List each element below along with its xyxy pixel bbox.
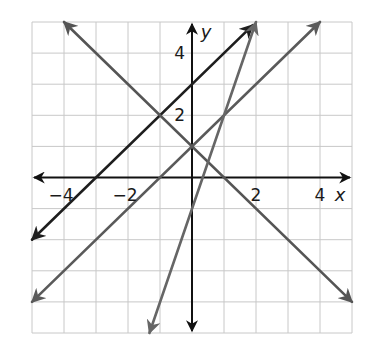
x-tick-label: −2 bbox=[112, 185, 137, 205]
y-tick-label: 4 bbox=[174, 43, 185, 63]
axes bbox=[34, 24, 350, 331]
x-tick-label: 4 bbox=[315, 185, 326, 205]
line-series-3 bbox=[32, 22, 320, 302]
y-tick-label: 2 bbox=[174, 105, 185, 125]
line-series-1 bbox=[32, 25, 253, 240]
x-axis-label: x bbox=[334, 184, 346, 205]
coordinate-plane: −4−22424xy bbox=[0, 0, 365, 354]
x-tick-label: 2 bbox=[251, 185, 262, 205]
x-tick-label: −4 bbox=[48, 185, 73, 205]
y-axis-label: y bbox=[200, 21, 212, 42]
